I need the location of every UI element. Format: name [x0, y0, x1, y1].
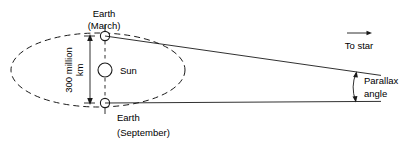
arrow-right-icon — [347, 31, 372, 35]
parallax-angle-label-line2: angle — [364, 88, 387, 99]
parallax-angle-label-line1: Parallax — [364, 75, 399, 86]
double-arrow-vertical-icon — [84, 34, 95, 105]
diagram-canvas: Earth (March) Earth (September) Sun 300 … — [0, 0, 416, 144]
earth-march-label-line2: (March) — [88, 20, 121, 31]
earth-march-label-line1: Earth — [93, 8, 116, 19]
earth-september-label-line2: (September) — [117, 127, 170, 138]
double-arrow-arc-icon — [353, 71, 358, 102]
earth-september-label-line1: Earth — [117, 112, 140, 123]
parallax-diagram: Earth (March) Earth (September) Sun 300 … — [0, 0, 416, 144]
sun-circle-icon — [98, 63, 112, 77]
to-star-label: To star — [345, 40, 374, 51]
sight-line-september — [105, 102, 357, 104]
baseline-label-line2: km — [74, 64, 85, 77]
baseline-label-line1: 300 million — [63, 47, 74, 92]
sun-label: Sun — [120, 65, 137, 76]
sight-line-march — [105, 36, 357, 72]
